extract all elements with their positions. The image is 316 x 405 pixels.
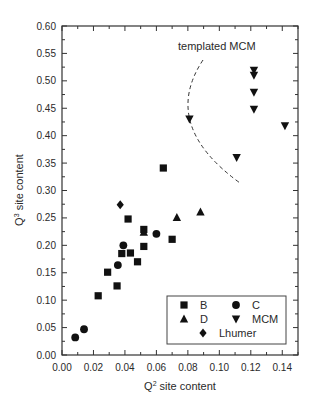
y-tick-label: 0.60 bbox=[37, 21, 57, 32]
square-marker bbox=[113, 282, 120, 289]
y-tick-label: 0.50 bbox=[37, 75, 57, 86]
series-lhumer bbox=[117, 200, 124, 209]
y-tick-label: 0.25 bbox=[37, 212, 57, 223]
templated-mcm-annotation: templated MCM bbox=[178, 40, 256, 183]
series-d bbox=[140, 207, 205, 235]
y-tick-label: 0.05 bbox=[37, 322, 57, 333]
square-marker bbox=[104, 269, 111, 276]
legend-label: Lhumer bbox=[219, 327, 257, 339]
square-marker bbox=[134, 258, 141, 265]
legend-label: MCM bbox=[252, 313, 278, 325]
circle-marker bbox=[153, 230, 161, 238]
x-axis-label: Q2 site content bbox=[144, 380, 216, 392]
x-tick-label: 0.14 bbox=[273, 362, 293, 373]
legend: BCDMCMLhumer bbox=[167, 296, 286, 344]
circle-marker bbox=[114, 261, 122, 269]
legend-label: C bbox=[252, 299, 260, 311]
triangle-down-marker bbox=[185, 116, 193, 124]
x-tick-label: 0.02 bbox=[84, 362, 104, 373]
x-tick-label: 0.04 bbox=[115, 362, 135, 373]
circle-marker bbox=[119, 241, 127, 249]
x-tick-label: 0.08 bbox=[178, 362, 198, 373]
y-tick-label: 0.45 bbox=[37, 103, 57, 114]
square-marker bbox=[124, 215, 131, 222]
y-tick-label: 0.55 bbox=[37, 48, 57, 59]
triangle-up-marker bbox=[196, 207, 204, 215]
square-marker bbox=[118, 250, 125, 257]
diamond-marker bbox=[117, 200, 124, 209]
triangle-up-marker bbox=[173, 213, 181, 221]
y-tick-label: 0.10 bbox=[37, 295, 57, 306]
x-tick-label: 0.06 bbox=[147, 362, 167, 373]
dashed-arc bbox=[188, 60, 240, 183]
circle-marker bbox=[80, 325, 88, 333]
y-tick-label: 0.40 bbox=[37, 130, 57, 141]
square-marker bbox=[169, 236, 176, 243]
legend-label: B bbox=[200, 299, 207, 311]
scatter-chart: 0.000.020.040.060.080.100.120.140.000.05… bbox=[0, 0, 316, 405]
y-tick-label: 0.30 bbox=[37, 185, 57, 196]
y-tick-label: 0.15 bbox=[37, 267, 57, 278]
y-tick-label: 0.35 bbox=[37, 158, 57, 169]
triangle-down-marker bbox=[250, 106, 258, 114]
triangle-down-marker bbox=[250, 72, 258, 80]
square-marker bbox=[160, 164, 167, 171]
square-marker bbox=[127, 249, 134, 256]
triangle-down-marker bbox=[250, 89, 258, 97]
x-tick-label: 0.10 bbox=[210, 362, 230, 373]
triangle-down-marker bbox=[281, 122, 289, 130]
legend-label: D bbox=[200, 313, 208, 325]
triangle-down-marker bbox=[232, 154, 240, 162]
y-axis-label: Q3 site content bbox=[13, 154, 25, 226]
annotation-label: templated MCM bbox=[178, 40, 256, 52]
x-tick-label: 0.00 bbox=[52, 362, 72, 373]
square-marker bbox=[95, 292, 102, 299]
y-tick-label: 0.20 bbox=[37, 240, 57, 251]
y-tick-label: 0.00 bbox=[37, 350, 57, 361]
circle-marker bbox=[71, 334, 79, 342]
square-icon bbox=[180, 301, 187, 308]
square-marker bbox=[140, 243, 147, 250]
x-tick-label: 0.12 bbox=[241, 362, 261, 373]
series-b bbox=[95, 164, 176, 299]
series-mcm bbox=[185, 67, 289, 162]
circle-icon bbox=[232, 301, 240, 309]
